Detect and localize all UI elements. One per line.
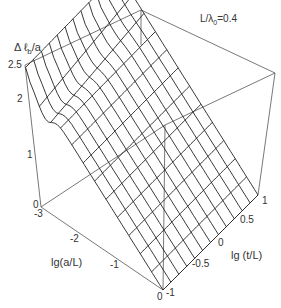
x-axis-title: lg(a/L) — [51, 257, 82, 268]
mesh-line-const-t — [73, 19, 211, 243]
z-title-post: /a — [32, 41, 41, 53]
x-tick-minus3: -3 — [34, 209, 43, 219]
z-tick-2: 2 — [17, 94, 23, 104]
x-tick-0: 0 — [157, 292, 163, 302]
parameter-annotation: L/λ0=0.4 — [200, 14, 237, 26]
x-tick-minus1: -1 — [110, 260, 119, 270]
x-tick-minus2: -2 — [70, 234, 79, 244]
mesh-line-const-t — [26, 67, 163, 290]
annotation-base: L/λ — [200, 13, 213, 24]
y-tick-minus1: -1 — [166, 288, 175, 298]
mesh-line-const-t — [105, 0, 243, 211]
mesh-line-const-t — [41, 51, 178, 274]
mesh-line-const-t — [57, 35, 195, 258]
z-tick-1: 1 — [27, 150, 33, 160]
surface-plot — [0, 0, 281, 308]
annotation-rest: =0.4 — [217, 13, 237, 24]
z-tick-2.5: 2.5 — [8, 60, 22, 70]
mesh-line-const-t — [81, 11, 219, 235]
y-tick-minus0.5: -0.5 — [192, 259, 209, 269]
z-axis-title: Δ ℓb/a — [14, 42, 41, 56]
y-tick-0.5: 0.5 — [240, 215, 254, 225]
mesh-line-const-t — [65, 27, 203, 251]
mesh-line-const-t — [89, 3, 227, 227]
mesh-line-const-t — [97, 0, 235, 219]
y-tick-0: 0 — [218, 238, 224, 248]
y-axis-title: lg (t/L) — [231, 250, 262, 261]
y-tick-1: 1 — [262, 196, 268, 206]
z-title-pre: Δ ℓ — [14, 41, 27, 53]
